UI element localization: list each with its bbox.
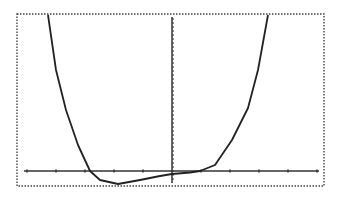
graph-screen [0, 0, 342, 198]
y-axis [172, 17, 174, 183]
function-curve [48, 15, 268, 184]
